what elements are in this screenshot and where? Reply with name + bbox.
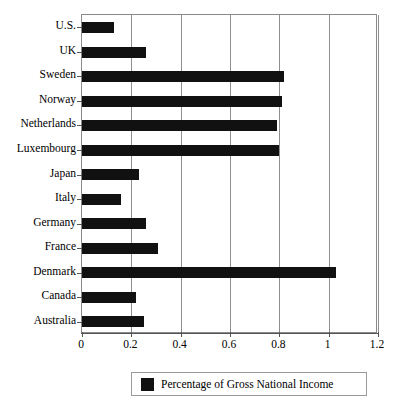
y-axis-tick: [77, 27, 82, 28]
plot-area: [81, 14, 377, 333]
bar-row: [82, 187, 376, 212]
y-axis-tick: [77, 175, 82, 176]
bar: [82, 194, 121, 205]
x-axis-tick-label: 0.6: [209, 338, 249, 351]
x-axis-tick-label: 0.4: [160, 338, 200, 351]
bar-row: [82, 260, 376, 285]
y-axis-tick: [77, 150, 82, 151]
y-axis-tick: [77, 101, 82, 102]
legend-swatch-icon: [141, 378, 154, 391]
bar-row: [82, 89, 376, 114]
y-axis-category-label: Denmark: [0, 265, 76, 277]
y-axis-tick: [77, 273, 82, 274]
y-axis-tick: [77, 322, 82, 323]
x-axis-tick-label: 0.2: [110, 338, 150, 351]
legend-label: Percentage of Gross National Income: [161, 378, 333, 391]
x-axis-tick: [279, 332, 280, 337]
x-axis-tick: [230, 332, 231, 337]
y-axis-category-label: Germany: [0, 216, 76, 228]
x-axis-tick-label: 1.2: [357, 338, 397, 351]
bar-row: [82, 162, 376, 187]
y-axis-category-label: Luxembourg: [0, 142, 76, 154]
bar-chart-figure: U.S.UKSwedenNorwayNetherlandsLuxembourgJ…: [0, 0, 397, 411]
x-axis-tick-label: 0.8: [258, 338, 298, 351]
bar: [82, 71, 284, 82]
bar: [82, 243, 158, 254]
bar: [82, 292, 136, 303]
bar-row: [82, 64, 376, 89]
bar: [82, 267, 336, 278]
y-axis-tick: [77, 125, 82, 126]
y-axis-category-label: Sweden: [0, 68, 76, 80]
bar: [82, 120, 277, 131]
bar-row: [82, 138, 376, 163]
y-axis-tick: [77, 76, 82, 77]
x-axis-tick: [82, 332, 83, 337]
bar: [82, 96, 282, 107]
y-axis-tick: [77, 52, 82, 53]
x-axis-tick: [181, 332, 182, 337]
y-axis-category-label: UK: [0, 44, 76, 56]
chart-legend: Percentage of Gross National Income: [131, 372, 367, 396]
x-axis-tick: [378, 332, 379, 337]
bar-row: [82, 211, 376, 236]
y-axis-category-label: Netherlands: [0, 117, 76, 129]
bar-row: [82, 236, 376, 261]
y-axis-category-label: Canada: [0, 289, 76, 301]
x-axis-tick: [131, 332, 132, 337]
bar-row: [82, 309, 376, 334]
bar: [82, 316, 144, 327]
y-axis-category-label: Italy: [0, 191, 76, 203]
bar-row: [82, 40, 376, 65]
y-axis-tick: [77, 224, 82, 225]
bar: [82, 169, 139, 180]
x-axis-tick: [329, 332, 330, 337]
bar-row: [82, 113, 376, 138]
y-axis-category-label: Australia: [0, 314, 76, 326]
y-axis-tick: [77, 248, 82, 249]
gridline: [378, 15, 379, 332]
y-axis-tick: [77, 199, 82, 200]
bar: [82, 22, 114, 33]
bar: [82, 145, 279, 156]
y-axis-tick: [77, 297, 82, 298]
bar: [82, 47, 146, 58]
y-axis-category-label: Norway: [0, 93, 76, 105]
y-axis-category-label: U.S.: [0, 19, 76, 31]
bar: [82, 218, 146, 229]
y-axis-category-label: France: [0, 240, 76, 252]
x-axis-tick-label: 0: [61, 338, 101, 351]
x-axis-tick-label: 1: [308, 338, 348, 351]
bar-row: [82, 285, 376, 310]
bar-row: [82, 15, 376, 40]
y-axis-category-label: Japan: [0, 167, 76, 179]
